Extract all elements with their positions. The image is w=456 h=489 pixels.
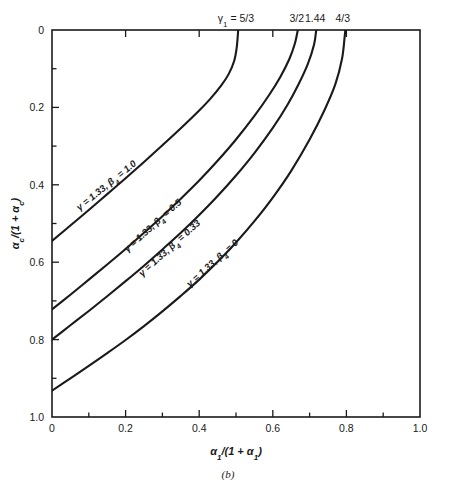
y-axis-title: αc/(1 + αc) bbox=[9, 197, 26, 249]
x-axis-title: α1/(1 + α1) bbox=[210, 445, 262, 462]
data-curve bbox=[52, 30, 298, 309]
panel-caption: (b) bbox=[222, 468, 235, 481]
curve-label: γ = 1.33, β4 = 1.0 bbox=[74, 157, 140, 214]
top-axis-annotation: 1.44 bbox=[305, 12, 326, 24]
x-axis-tick-label: 1.0 bbox=[413, 422, 428, 434]
top-axis-annotation: 4/3 bbox=[335, 12, 350, 24]
plot-frame bbox=[52, 30, 420, 417]
figure-panel: 00.20.40.60.81.000.20.40.60.81.0α1/(1 + … bbox=[0, 0, 456, 489]
y-axis-tick-label: 0.6 bbox=[29, 256, 44, 268]
y-axis-tick-label: 1.0 bbox=[29, 411, 44, 423]
top-axis-annotation: γ1 = 5/3 bbox=[218, 12, 254, 29]
x-axis-tick-label: 0.4 bbox=[192, 422, 207, 434]
y-axis-tick-label: 0.8 bbox=[29, 334, 44, 346]
chart-canvas: 00.20.40.60.81.000.20.40.60.81.0α1/(1 + … bbox=[0, 0, 456, 489]
y-axis-tick-label: 0.2 bbox=[29, 101, 44, 113]
top-axis-annotation: 3/2 bbox=[289, 12, 304, 24]
y-axis-tick-label: 0 bbox=[38, 24, 44, 36]
x-axis-tick-label: 0 bbox=[49, 422, 55, 434]
x-axis-tick-label: 0.8 bbox=[339, 422, 354, 434]
curve-label: γ = 1.33, β4 = 0 bbox=[184, 236, 242, 291]
y-axis-tick-label: 0.4 bbox=[29, 179, 44, 191]
x-axis-tick-label: 0.6 bbox=[265, 422, 280, 434]
data-curve bbox=[52, 30, 345, 391]
x-axis-tick-label: 0.2 bbox=[118, 422, 133, 434]
